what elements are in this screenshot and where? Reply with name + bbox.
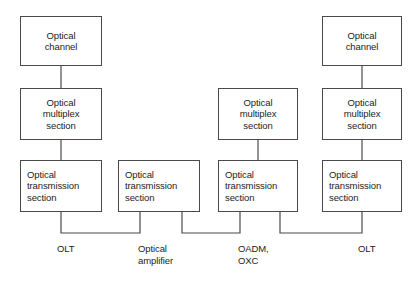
bottom-label-optical-amplifier: Opticalamplifier — [138, 243, 173, 266]
node-label-line: Optical — [125, 169, 154, 181]
node-label-line: channel — [45, 41, 78, 53]
connector-ots3-ots4 — [280, 212, 362, 233]
node-label-line: Optical — [47, 97, 76, 109]
node-label-line: Optical — [348, 97, 377, 109]
node-ots3: Opticaltransmissionsection — [218, 160, 298, 212]
node-label-line: multiplex — [240, 108, 277, 120]
connector-ots1-ots2 — [61, 212, 140, 233]
node-label-line: transmission — [225, 180, 277, 192]
bottom-label-line: OXC — [238, 255, 269, 267]
bottom-label-olt-left: OLT — [57, 243, 74, 255]
node-ots4: Opticaltransmissionsection — [322, 160, 402, 212]
bottom-label-olt-right: OLT — [358, 243, 375, 255]
node-label-line: section — [329, 192, 358, 204]
node-ots2: Opticaltransmissionsection — [118, 160, 200, 212]
node-label-line: transmission — [27, 180, 79, 192]
node-label-line: multiplex — [43, 108, 80, 120]
node-label-line: Optical — [329, 169, 358, 181]
bottom-label-oadm-oxc: OADM,OXC — [238, 243, 269, 266]
node-ch1: Opticalchannel — [20, 16, 102, 66]
node-label-line: section — [225, 192, 254, 204]
bottom-label-line: amplifier — [138, 255, 173, 267]
node-label-line: transmission — [125, 180, 177, 192]
bottom-label-line: OADM, — [238, 243, 269, 255]
node-oms4: Opticalmultiplexsection — [322, 88, 402, 140]
optical-network-diagram: OpticalchannelOpticalmultiplexsectionOpt… — [0, 0, 420, 284]
node-label-line: Optical — [244, 97, 273, 109]
bottom-label-line: OLT — [358, 243, 375, 255]
node-label-line: transmission — [329, 180, 381, 192]
node-label-line: Optical — [348, 30, 377, 42]
node-ots1: Opticaltransmissionsection — [20, 160, 102, 212]
node-label-line: multiplex — [344, 108, 381, 120]
connector-ots2-ots3 — [182, 212, 240, 233]
node-oms1: Opticalmultiplexsection — [20, 88, 102, 140]
node-label-line: Optical — [47, 30, 76, 42]
node-ch4: Opticalchannel — [322, 16, 402, 66]
u-shaped-connectors — [61, 212, 362, 233]
node-label-line: section — [27, 192, 56, 204]
node-oms3: Opticalmultiplexsection — [218, 88, 298, 140]
node-label-line: section — [46, 120, 75, 132]
node-label-line: Optical — [27, 169, 56, 181]
node-label-line: channel — [346, 41, 379, 53]
node-label-line: section — [243, 120, 272, 132]
bottom-label-line: OLT — [57, 243, 74, 255]
bottom-label-line: Optical — [138, 243, 173, 255]
node-label-line: Optical — [225, 169, 254, 181]
node-label-line: section — [347, 120, 376, 132]
node-label-line: section — [125, 192, 154, 204]
vertical-connectors — [61, 66, 362, 160]
